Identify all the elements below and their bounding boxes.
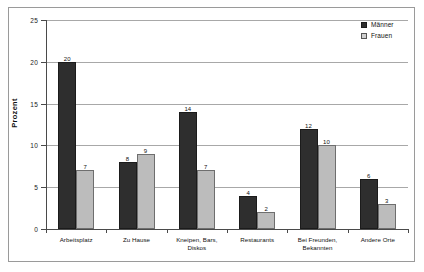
bar-frauen-0[interactable]: 7 [76,170,94,229]
bar-frauen-5[interactable]: 3 [378,204,396,229]
y-tick-label-5: 5 [34,184,38,191]
bar-maenner-5[interactable]: 6 [360,179,378,229]
bar-frauen-2[interactable]: 7 [197,170,215,229]
legend-swatch-maenner-icon [361,22,367,28]
bar-value-label: 6 [367,173,370,179]
bar-value-label: 10 [323,139,330,145]
bar-maenner-2[interactable]: 14 [179,112,197,229]
y-tick-label-15: 15 [30,100,38,107]
bar-value-label: 3 [385,198,388,204]
x-tick-mark-0 [106,229,107,233]
bar-maenner-3[interactable]: 4 [239,196,257,229]
x-axis-label-5: Andere Orte [348,236,408,244]
y-tick-label-25: 25 [30,17,38,24]
legend-item-maenner[interactable]: Männer [361,19,394,30]
y-axis-title: Prozent [10,98,19,128]
bar-value-label: 4 [246,190,249,196]
x-tick-mark-2 [227,229,228,233]
x-axis-label-1: Zu Hause [106,236,166,244]
x-axis-label-4: Bei Freunden, Bekannten [287,236,347,252]
bar-value-label: 7 [83,164,86,170]
bar-maenner-4[interactable]: 12 [300,129,318,229]
legend-label-maenner: Männer [371,21,394,28]
bar-value-label: 14 [184,106,191,112]
x-axis-label-2: Kneipen, Bars, Diskos [167,236,227,252]
x-tick-mark-origin [46,229,47,233]
x-tick-mark-5 [408,229,409,233]
x-tick-mark-1 [167,229,168,233]
bar-value-label: 20 [64,56,71,62]
bar-value-label: 12 [305,123,312,129]
chart-legend: Männer Frauen [361,19,394,41]
bar-value-label: 9 [144,148,147,154]
y-tick-label-20: 20 [30,58,38,65]
bar-frauen-4[interactable]: 10 [318,145,336,229]
chart-figure: Prozent 0510152025 2078914742121063 Arbe… [0,0,424,272]
bar-maenner-1[interactable]: 8 [119,162,137,229]
legend-swatch-frauen-icon [361,33,367,39]
bar-frauen-1[interactable]: 9 [137,154,155,229]
bar-value-label: 2 [264,206,267,212]
bar-maenner-0[interactable]: 20 [58,62,76,229]
legend-label-frauen: Frauen [371,32,392,39]
bar-value-label: 7 [204,164,207,170]
x-axis-label-0: Arbeitsplatz [46,236,106,244]
bar-value-label: 8 [126,156,129,162]
legend-item-frauen[interactable]: Frauen [361,30,394,41]
x-axis-label-3: Restaurants [227,236,287,244]
x-tick-mark-3 [287,229,288,233]
bars-layer: 2078914742121063 [46,20,408,229]
y-tick-label-0: 0 [34,226,38,233]
x-tick-mark-4 [348,229,349,233]
bar-frauen-3[interactable]: 2 [257,212,275,229]
y-tick-label-10: 10 [30,142,38,149]
